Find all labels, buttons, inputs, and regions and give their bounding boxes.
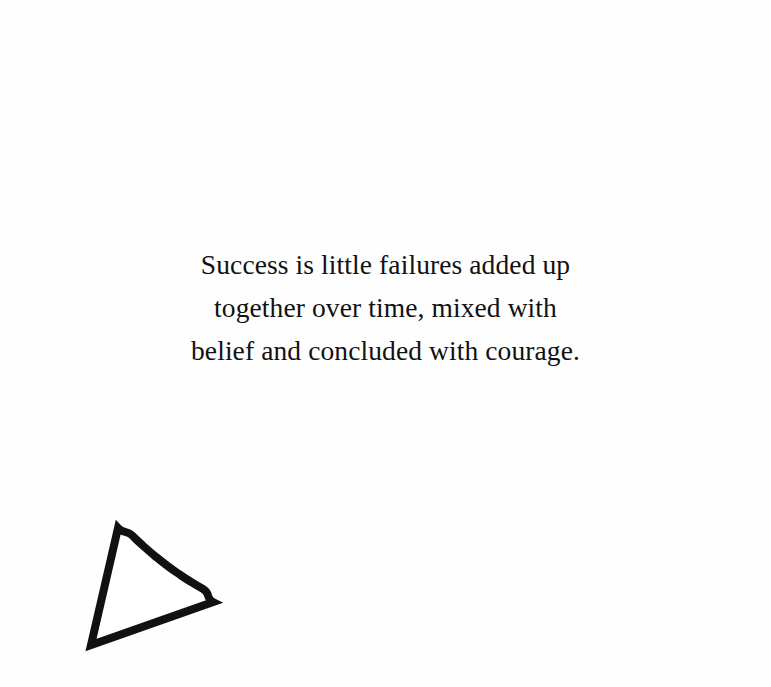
speech-bubble-canvas: Success is little failures added up toge… bbox=[0, 0, 771, 687]
quote-line-2: together over time, mixed with bbox=[118, 286, 653, 329]
quote-text-block: Success is little failures added up toge… bbox=[118, 243, 653, 372]
quote-line-3: belief and concluded with courage. bbox=[118, 329, 653, 372]
quote-line-1: Success is little failures added up bbox=[118, 243, 653, 286]
speech-bubble-outline bbox=[91, 528, 213, 645]
